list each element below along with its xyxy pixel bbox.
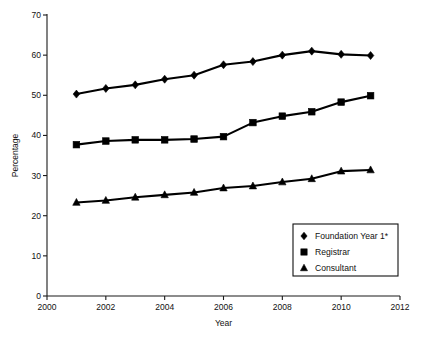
y-tick-label: 50 (32, 90, 42, 100)
square-marker (250, 119, 257, 126)
diamond-marker (279, 51, 286, 59)
diamond-marker (367, 52, 374, 60)
square-marker (132, 137, 139, 144)
x-tick-label: 2004 (155, 302, 174, 312)
legend-label: Registrar (315, 247, 350, 257)
legend-label: Foundation Year 1* (315, 231, 389, 241)
square-marker (161, 137, 168, 144)
y-tick-label: 20 (32, 211, 42, 221)
x-axis-ticks: 2000200220042006200820102012 (38, 296, 410, 312)
diamond-marker (132, 81, 139, 89)
square-marker (191, 136, 198, 143)
diamond-marker (308, 47, 315, 55)
square-marker (301, 249, 307, 255)
diamond-marker (338, 50, 345, 58)
series-consultant (73, 166, 375, 205)
y-tick-label: 70 (32, 10, 42, 20)
diamond-marker (220, 61, 227, 69)
square-marker (220, 133, 227, 140)
x-tick-label: 2012 (391, 302, 410, 312)
series-foundation-year-1 (73, 47, 374, 98)
line-chart: 010203040506070 200020022004200620082010… (0, 0, 423, 339)
x-tick-label: 2006 (214, 302, 233, 312)
square-marker (308, 108, 315, 115)
x-tick-label: 2002 (96, 302, 115, 312)
diamond-marker (103, 84, 110, 92)
series-line (76, 51, 370, 94)
series-registrar (73, 92, 374, 148)
chart-legend: Foundation Year 1*RegistrarConsultant (293, 224, 398, 276)
y-tick-label: 30 (32, 171, 42, 181)
diamond-marker (191, 71, 198, 79)
square-marker (367, 92, 374, 99)
legend-label: Consultant (315, 263, 357, 273)
x-tick-label: 2010 (332, 302, 351, 312)
series-group (73, 47, 375, 205)
diamond-marker (73, 90, 80, 98)
x-axis-title: Year (215, 318, 232, 328)
y-tick-label: 60 (32, 50, 42, 60)
square-marker (103, 138, 110, 145)
y-tick-label: 10 (32, 251, 42, 261)
x-tick-label: 2000 (38, 302, 57, 312)
y-axis-ticks: 010203040506070 (32, 10, 47, 301)
square-marker (73, 141, 80, 148)
chart-container: 010203040506070 200020022004200620082010… (0, 0, 423, 339)
square-marker (279, 113, 286, 120)
x-tick-label: 2008 (273, 302, 292, 312)
y-tick-label: 40 (32, 130, 42, 140)
y-tick-label: 0 (36, 291, 41, 301)
square-marker (338, 99, 345, 106)
y-axis-title: Percentage (10, 133, 20, 177)
diamond-marker (250, 58, 257, 66)
diamond-marker (161, 75, 168, 83)
